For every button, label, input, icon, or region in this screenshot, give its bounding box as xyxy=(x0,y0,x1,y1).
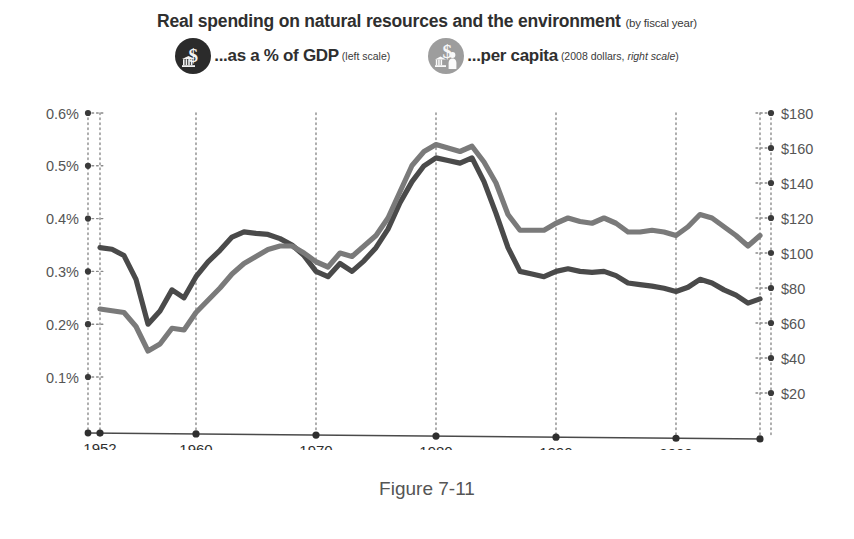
y-axis-tick-dot xyxy=(85,110,91,116)
legend-item-gdp[interactable]: $ ...as a % of GDP (left scale) xyxy=(175,38,390,74)
chart-header: Real spending on natural resources and t… xyxy=(0,0,854,74)
legend-item-percapita[interactable]: $ ...per capita (2008 dollars, right sca… xyxy=(428,38,679,74)
y2-axis-tick-dot xyxy=(768,110,774,116)
chart-svg: 0.1%0.2%0.3%0.4%0.5%0.6%$20$40$60$80$100… xyxy=(0,100,854,450)
y-axis-label: 0.1% xyxy=(46,370,79,386)
y-axis-label: 0.5% xyxy=(46,158,79,174)
figure-root: Real spending on natural resources and t… xyxy=(0,0,854,539)
y2-axis-tick-dot xyxy=(768,320,774,326)
x-axis-label: 1980 xyxy=(419,443,452,450)
y2-axis-label: $100 xyxy=(781,246,813,262)
y-axis-tick-dot xyxy=(85,268,91,274)
legend-note-prefix: (2008 dollars, xyxy=(561,50,628,62)
y2-axis-label: $140 xyxy=(781,176,813,192)
chart-title: Real spending on natural resources and t… xyxy=(0,0,854,32)
legend-note-percapita: (2008 dollars, right scale) xyxy=(561,50,679,62)
legend-note-suffix: ) xyxy=(675,50,679,62)
y2-axis-label: $60 xyxy=(781,316,805,332)
y2-axis-tick-dot xyxy=(768,390,774,396)
x-axis-line xyxy=(88,433,763,439)
y2-axis-label: $180 xyxy=(781,106,813,122)
dollar-building-dark-icon: $ xyxy=(175,38,211,74)
series-line-percapita xyxy=(100,145,760,352)
legend-label-percapita: ...per capita xyxy=(467,46,558,66)
y2-axis-tick-dot xyxy=(768,355,774,361)
x-axis-label: 1990 xyxy=(539,444,572,450)
x-axis-tick-dot xyxy=(192,430,199,437)
figure-caption: Figure 7-11 xyxy=(0,478,854,500)
dollar-sign-icon: $ xyxy=(175,38,211,74)
y2-axis-tick-dot xyxy=(768,285,774,291)
x-axis-tick-dot xyxy=(552,434,559,441)
dollar-building-person-gray-icon: $ xyxy=(428,38,464,74)
legend-label-gdp: ...as a % of GDP xyxy=(214,46,339,66)
y-axis-label: 0.2% xyxy=(46,317,79,333)
chart-legend: $ ...as a % of GDP (left scale) xyxy=(0,38,854,74)
x-axis-label: 2000 xyxy=(659,445,692,450)
x-axis-tick-dot xyxy=(672,435,679,442)
y-axis-label: 0.3% xyxy=(46,264,79,280)
x-axis-label: 1960 xyxy=(179,441,212,450)
x-axis-label: 1952 xyxy=(83,440,116,450)
y-axis-label: 0.6% xyxy=(46,106,79,122)
y2-axis-tick-dot xyxy=(768,215,774,221)
x-axis-label: 1970 xyxy=(299,442,332,450)
x-axis-tick-dot xyxy=(312,431,319,438)
y2-axis-label: $80 xyxy=(781,281,805,297)
x-axis-tick-dot xyxy=(756,435,763,442)
y-axis-tick-dot xyxy=(85,163,91,169)
series-line-gdp xyxy=(100,158,760,324)
y2-axis-label: $160 xyxy=(781,141,813,157)
legend-note-italic: right scale xyxy=(627,50,675,62)
x-axis-label: 2007 xyxy=(743,446,776,450)
y2-axis-tick-dot xyxy=(768,145,774,151)
y-axis-tick-dot xyxy=(85,374,91,380)
y-axis-tick-dot xyxy=(85,216,91,222)
chart-title-sub: (by fiscal year) xyxy=(625,17,697,29)
x-axis-tick-dot xyxy=(432,432,439,439)
y2-axis-label: $40 xyxy=(781,351,805,367)
y2-axis-label: $20 xyxy=(781,386,805,402)
chart-title-main: Real spending on natural resources and t… xyxy=(157,11,621,31)
y-axis-label: 0.4% xyxy=(46,211,79,227)
chart-plot-area: 0.1%0.2%0.3%0.4%0.5%0.6%$20$40$60$80$100… xyxy=(0,100,854,450)
y2-axis-tick-dot xyxy=(768,180,774,186)
y2-axis-label: $120 xyxy=(781,211,813,227)
x-axis-origin-dot xyxy=(85,430,92,437)
y-axis-tick-dot xyxy=(85,321,91,327)
x-axis-tick-dot xyxy=(96,430,103,437)
y2-axis-tick-dot xyxy=(768,250,774,256)
dollar-sign-icon: $ xyxy=(429,34,465,70)
legend-note-gdp: (left scale) xyxy=(342,50,390,62)
